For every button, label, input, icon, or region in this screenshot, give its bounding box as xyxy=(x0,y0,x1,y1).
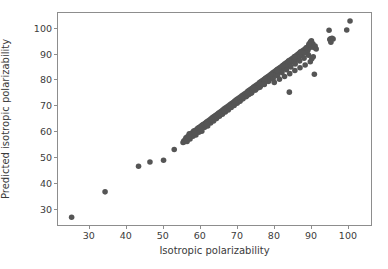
y-tick-label: 50 xyxy=(40,152,52,163)
data-point xyxy=(292,54,298,60)
data-point xyxy=(227,103,233,109)
data-point xyxy=(69,215,75,221)
x-tick-label: 60 xyxy=(194,230,206,241)
data-point xyxy=(302,62,308,68)
data-point xyxy=(286,58,292,64)
data-point xyxy=(297,65,303,71)
y-tick-mark xyxy=(54,105,57,106)
x-tick-label: 90 xyxy=(305,230,317,241)
data-point xyxy=(198,126,204,132)
x-tick-mark xyxy=(126,226,127,229)
data-point xyxy=(271,80,277,86)
y-tick-label: 30 xyxy=(40,204,52,215)
data-point xyxy=(344,27,350,33)
data-point xyxy=(310,54,316,60)
y-tick-label: 60 xyxy=(40,126,52,137)
data-point xyxy=(287,71,293,77)
data-point xyxy=(282,74,288,80)
data-point xyxy=(312,71,318,77)
data-point xyxy=(326,27,332,33)
scatter-plot-figure: 30405060708090100 30405060708090100 Isot… xyxy=(0,0,388,269)
data-point xyxy=(161,157,167,163)
data-point xyxy=(136,163,142,169)
x-tick-mark xyxy=(163,226,164,229)
x-tick-label: 40 xyxy=(120,230,132,241)
data-point xyxy=(268,72,274,78)
data-point xyxy=(277,77,283,83)
data-point xyxy=(313,46,319,52)
data-point xyxy=(330,36,336,42)
data-point xyxy=(287,89,293,95)
data-point xyxy=(221,108,227,114)
y-tick-label: 90 xyxy=(40,48,52,59)
x-tick-mark xyxy=(348,226,349,229)
x-tick-label: 80 xyxy=(268,230,280,241)
data-point xyxy=(233,99,239,105)
y-tick-mark xyxy=(54,183,57,184)
data-point xyxy=(298,49,304,55)
x-tick-mark xyxy=(237,226,238,229)
data-point xyxy=(245,90,251,96)
y-tick-mark xyxy=(54,79,57,80)
y-tick-mark xyxy=(54,28,57,29)
data-point xyxy=(262,76,268,82)
y-tick-mark xyxy=(54,54,57,55)
data-point xyxy=(280,63,286,69)
data-point xyxy=(147,159,153,165)
scatter-points-layer xyxy=(58,13,371,225)
y-tick-label: 40 xyxy=(40,178,52,189)
y-tick-label: 80 xyxy=(40,74,52,85)
x-tick-mark xyxy=(311,226,312,229)
y-tick-mark xyxy=(54,131,57,132)
x-tick-mark xyxy=(274,226,275,229)
x-tick-label: 70 xyxy=(231,230,243,241)
data-point xyxy=(251,85,257,91)
data-point xyxy=(306,42,312,48)
x-tick-mark xyxy=(200,226,201,229)
data-point xyxy=(203,121,209,127)
x-tick-label: 50 xyxy=(157,230,169,241)
y-tick-mark xyxy=(54,209,57,210)
x-axis-label: Isotropic polarizability xyxy=(57,245,372,256)
plot-axes-area xyxy=(57,12,372,226)
y-axis-label: Predicted isotropic polarizability xyxy=(0,12,14,226)
data-point xyxy=(171,147,177,153)
data-point xyxy=(192,130,198,136)
data-point xyxy=(102,189,108,195)
data-point xyxy=(209,117,215,123)
data-point xyxy=(347,18,353,24)
y-tick-mark xyxy=(54,157,57,158)
data-point xyxy=(215,112,221,118)
data-point xyxy=(274,67,280,73)
x-tick-mark xyxy=(89,226,90,229)
y-tick-label: 100 xyxy=(34,22,52,33)
data-point xyxy=(292,68,298,74)
x-tick-label: 100 xyxy=(339,230,357,241)
data-point xyxy=(239,94,245,100)
x-tick-label: 30 xyxy=(83,230,95,241)
y-tick-label: 70 xyxy=(40,100,52,111)
data-point xyxy=(256,81,262,87)
data-point xyxy=(186,135,192,141)
